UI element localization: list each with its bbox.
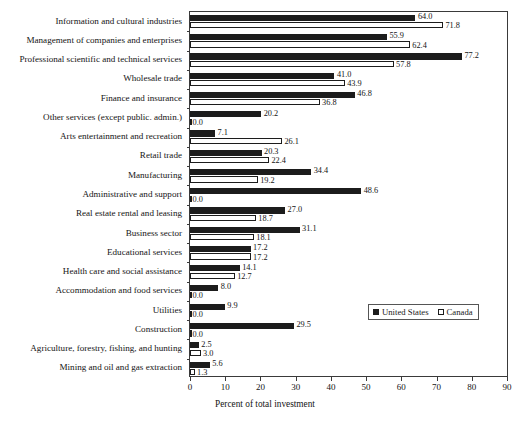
bar-united-states [190,53,462,59]
bar-united-states [190,169,311,175]
bar-canada [190,369,195,375]
bar-united-states [190,227,300,233]
bar-value-united-states: 46.8 [357,90,372,99]
bar-value-canada: 18.7 [258,215,273,224]
bar-value-united-states: 2.5 [201,341,211,350]
y-axis-tick [187,89,190,90]
bar-value-united-states: 7.1 [218,129,228,138]
category-label: Health care and social assistance [63,266,182,276]
bar-value-united-states: 27.0 [288,206,303,215]
legend-label-united-states: United States [382,307,429,317]
category-axis-labels: Information and cultural industriesManag… [0,11,186,367]
bar-canada [190,138,282,144]
bar-value-canada: 43.9 [347,80,362,89]
empty-square-icon [438,309,444,315]
bar-value-united-states: 8.0 [221,283,231,292]
bar-canada [190,350,201,356]
category-label: Professional scientific and technical se… [19,54,182,64]
bar-united-states [190,323,294,329]
filled-square-icon [373,309,379,315]
y-axis-tick [187,51,190,52]
bars-container: 64.071.855.962.477.257.841.043.946.836.8… [190,12,507,376]
y-axis-tick [187,70,190,71]
x-axis-tick [331,377,332,381]
category-label: Information and cultural industries [55,16,182,26]
bar-canada [190,234,254,240]
bar-united-states [190,285,218,291]
x-axis-tick-label: 10 [221,382,230,393]
x-axis-tick-label: 80 [467,382,476,393]
bar-value-canada: 62.4 [412,42,427,51]
category-label: Manufacturing [128,170,182,180]
legend-label-canada: Canada [447,307,473,317]
x-axis-tick [437,377,438,381]
bar-united-states [190,246,251,252]
category-label: Retail trade [140,150,182,160]
y-axis-tick [187,224,190,225]
bar-value-canada: 26.1 [284,138,299,147]
y-axis-tick [187,31,190,32]
x-axis-tick [260,377,261,381]
bar-value-canada: 0.0 [193,311,203,320]
bar-value-united-states: 64.0 [418,13,433,22]
category-label: Other services (except public. admin.) [43,112,182,122]
y-axis-tick [187,243,190,244]
bar-canada [190,61,394,67]
x-axis-tick [190,377,191,381]
legend-entry-united-states: United States [373,307,429,317]
x-axis-tick [366,377,367,381]
bar-value-canada: 0.0 [193,196,203,205]
x-axis-tick [401,377,402,381]
y-axis-tick [187,147,190,148]
bar-canada [190,80,345,86]
x-axis-tick [225,377,226,381]
bar-canada [190,99,320,105]
bar-value-united-states: 31.1 [302,225,317,234]
category-label: Utilities [153,305,182,315]
x-axis-tick-labels: 0102030405060708090 [189,382,508,396]
y-axis-tick [187,128,190,129]
bar-united-states [190,92,355,98]
category-label: Arts entertainment and recreation [60,131,182,141]
bar-united-states [190,150,262,156]
bar-value-united-states: 77.2 [464,52,479,61]
category-label: Management of companies and enterprises [26,35,182,45]
category-label: Mining and oil and gas extraction [60,362,183,372]
x-axis-tick-label: 40 [326,382,335,393]
bar-value-united-states: 17.2 [253,244,268,253]
bar-value-united-states: 20.2 [264,110,279,119]
category-label: Accommodation and food services [55,285,182,295]
bar-united-states [190,111,261,117]
bar-canada [190,215,256,221]
bar-united-states [190,188,361,194]
x-axis-tick-label: 60 [397,382,406,393]
bar-value-united-states: 29.5 [296,321,311,330]
x-axis-tick-label: 20 [256,382,265,393]
bar-united-states [190,34,387,40]
y-axis-tick [187,205,190,206]
y-axis-tick [187,262,190,263]
bar-canada [190,176,258,182]
category-label: Real estate rental and leasing [76,208,182,218]
bar-united-states [190,73,334,79]
bar-canada [190,273,235,279]
bar-value-canada: 0.0 [193,331,203,340]
bar-value-united-states: 34.4 [314,167,329,176]
bar-value-canada: 36.8 [322,99,337,108]
chart-legend: United States Canada [368,304,479,320]
y-axis-tick [187,108,190,109]
bar-value-canada: 19.2 [260,177,275,186]
category-label: Business sector [126,228,182,238]
y-axis-tick [187,282,190,283]
bar-value-united-states: 5.6 [212,360,222,369]
bar-value-canada: 3.0 [203,350,213,359]
bar-united-states [190,362,210,368]
bar-value-united-states: 48.6 [364,187,379,196]
category-label: Construction [135,324,182,334]
y-axis-tick [187,359,190,360]
category-label: Administrative and support [82,189,182,199]
x-axis-tick [296,377,297,381]
x-axis-tick-label: 0 [188,382,193,393]
x-axis-tick-label: 30 [291,382,300,393]
y-axis-tick [187,301,190,302]
